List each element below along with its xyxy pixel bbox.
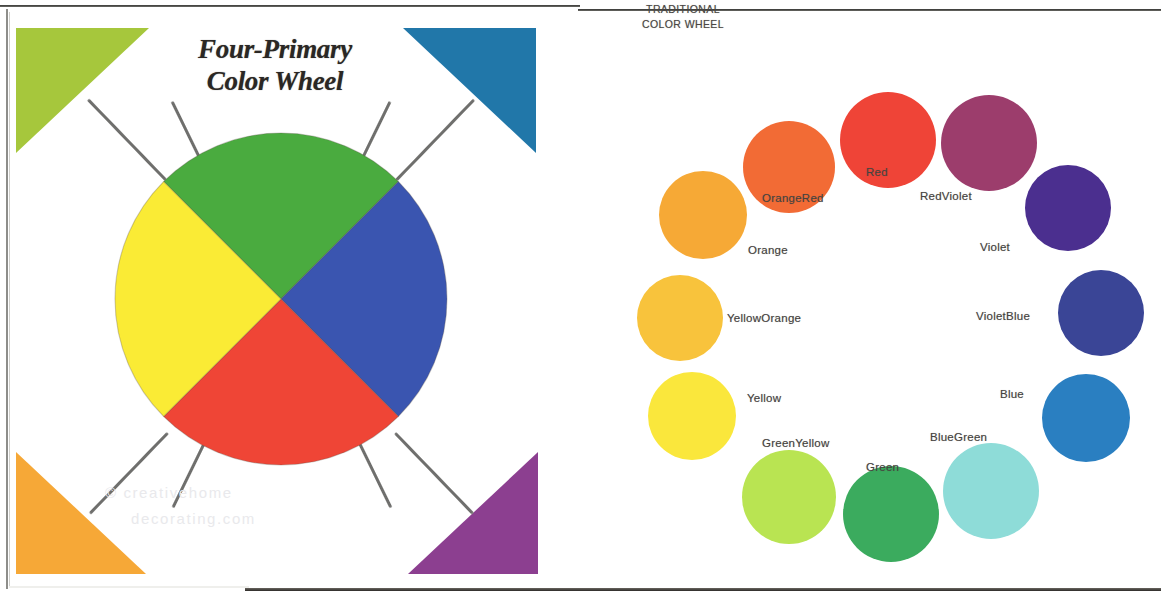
swatch-violetblue	[1058, 270, 1144, 356]
four-primary-color-wheel-card: Four-Primary Color Wheel © creativehome …	[10, 12, 530, 584]
swatch-blue	[1042, 374, 1130, 462]
swatch-label-blue: Blue	[1000, 388, 1024, 400]
swatch-label-violetblue: VioletBlue	[976, 310, 1030, 322]
scan-border-top-left	[0, 5, 580, 7]
swatch-yellow	[648, 372, 736, 460]
swatch-yelloworange	[637, 275, 723, 361]
traditional-title-line-2: COLOR WHEEL	[642, 18, 724, 30]
swatch-redviolet	[941, 95, 1037, 191]
scanned-page: Four-Primary Color Wheel © creativehome …	[0, 0, 1161, 599]
scan-border-bottom	[245, 588, 1161, 591]
swatch-label-orange: Orange	[748, 244, 788, 256]
swatch-label-violet: Violet	[980, 241, 1010, 253]
title-line-1: Four-Primary	[198, 34, 352, 64]
scan-border-bottom-fade	[9, 586, 249, 588]
traditional-title-line-1: TRADITIONAL	[646, 3, 720, 15]
swatch-label-red: Red	[866, 166, 888, 178]
swatch-orange	[659, 171, 747, 259]
wheel-svg	[114, 132, 448, 466]
title-line-2: Color Wheel	[207, 66, 343, 96]
page-title: Four-Primary Color Wheel	[130, 34, 420, 98]
four-primary-wheel	[114, 132, 448, 466]
swatch-label-bluegreen: BlueGreen	[930, 431, 987, 443]
swatch-greenyellow	[742, 450, 836, 544]
swatch-label-redviolet: RedViolet	[920, 190, 972, 202]
swatch-green	[843, 466, 939, 562]
swatch-red	[840, 92, 936, 188]
swatch-label-orangered: OrangeRed	[762, 192, 824, 204]
watermark: © creativehome decorating.com	[105, 480, 395, 531]
swatch-bluegreen	[943, 443, 1039, 539]
swatch-label-yelloworange: YellowOrange	[727, 312, 801, 324]
swatch-violet	[1025, 165, 1111, 251]
scan-border-left	[6, 9, 8, 589]
traditional-wheel-title: TRADITIONAL COLOR WHEEL	[608, 2, 758, 32]
watermark-line-2: decorating.com	[105, 506, 395, 532]
watermark-line-1: © creativehome	[105, 480, 395, 506]
swatch-label-yellow: Yellow	[747, 392, 781, 404]
swatch-label-greenyellow: GreenYellow	[762, 437, 830, 449]
swatch-label-green: Green	[866, 461, 899, 473]
